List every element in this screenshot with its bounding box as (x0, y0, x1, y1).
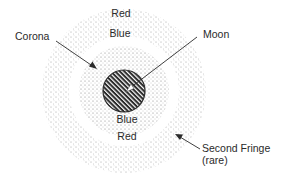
corona-label: Corona (15, 31, 49, 42)
outer-top-blue-label: Blue (109, 28, 130, 39)
moon-label: Moon (203, 29, 229, 40)
corona-diagram: Corona Moon Red Blue Blue Red Second Fri… (0, 0, 281, 177)
outer-bottom-red-label: Red (117, 131, 136, 142)
outer-top-red-label: Red (111, 8, 130, 19)
moon-disc (103, 70, 145, 112)
second-fringe-label: Second Fringe (202, 143, 270, 154)
inner-bottom-blue-label: Blue (116, 114, 137, 125)
rare-label: (rare) (202, 155, 228, 166)
